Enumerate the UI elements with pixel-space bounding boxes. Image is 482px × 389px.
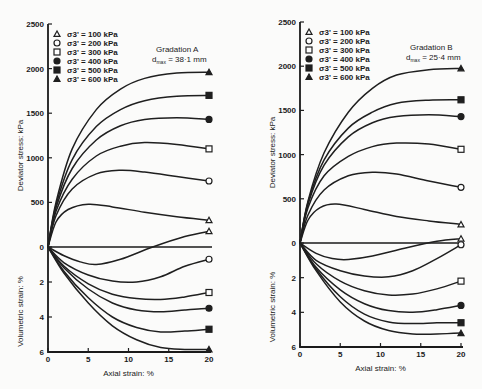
legend-label: σ3' = 500 kPa bbox=[67, 66, 118, 75]
legend-marker-icon bbox=[54, 31, 60, 36]
legend-marker-icon bbox=[306, 47, 312, 53]
volumetric-curve-200-kpa bbox=[300, 243, 461, 277]
x-tick-label: 10 bbox=[376, 350, 385, 359]
y-tick-label-volumetric: 4 bbox=[40, 313, 45, 322]
stress-curve-600-kpa bbox=[300, 68, 461, 243]
volumetric-curve-300-kpa bbox=[300, 243, 461, 295]
data-point-marker-icon bbox=[206, 326, 212, 332]
y-tick-label-stress: 2000 bbox=[278, 62, 296, 71]
data-point-marker-icon bbox=[206, 69, 212, 74]
data-point-marker-icon bbox=[458, 236, 464, 241]
legend-marker-icon bbox=[306, 38, 312, 44]
dmax-label: dmax = 38·1 mm bbox=[152, 55, 207, 65]
y-tick-label-volumetric: 2 bbox=[40, 278, 45, 287]
data-point-marker-icon bbox=[458, 146, 464, 152]
stress-curve-400-kpa bbox=[300, 115, 461, 243]
legend-marker-icon bbox=[54, 49, 60, 55]
y-tick-label-stress: 2500 bbox=[26, 20, 44, 29]
data-point-marker-icon bbox=[206, 116, 212, 122]
stress-curve-300-kpa bbox=[300, 143, 461, 243]
legend: σ3' = 100 kPaσ3' = 200 kPaσ3' = 300 kPaσ… bbox=[306, 28, 370, 82]
y-tick-label-stress: 1500 bbox=[278, 106, 296, 115]
y-tick-label-volumetric: 4 bbox=[292, 308, 297, 317]
data-point-marker-icon bbox=[458, 97, 464, 103]
gradation-label: Gradation A bbox=[156, 45, 199, 54]
y-axis-title-volumetric: Volumetric strain: % bbox=[16, 276, 25, 347]
x-tick-label: 20 bbox=[205, 355, 214, 364]
legend-label: σ3' = 600 kPa bbox=[67, 75, 118, 84]
legend-marker-icon bbox=[54, 67, 60, 73]
data-point-marker-icon bbox=[458, 278, 464, 284]
data-point-marker-icon bbox=[458, 221, 464, 226]
chart-panel-gradation-b: 0500100015002000250024605101520Axial str… bbox=[268, 18, 466, 373]
legend-marker-icon bbox=[306, 65, 312, 71]
volumetric-curve-100-kpa bbox=[48, 231, 209, 264]
legend-marker-icon bbox=[54, 40, 60, 46]
stress-curve-100-kpa bbox=[300, 204, 461, 243]
legend-label: σ3' = 100 kPa bbox=[319, 28, 370, 37]
gradation-annotation: Gradation Bdmax = 25·4 mm bbox=[406, 43, 461, 63]
y-tick-label-stress: 0 bbox=[292, 239, 297, 248]
legend-label: σ3' = 300 kPa bbox=[67, 48, 118, 57]
y-axis-title-stress: Deviator stress: kPa bbox=[268, 116, 277, 188]
y-tick-label-volumetric: 6 bbox=[292, 343, 297, 352]
data-point-marker-icon bbox=[458, 242, 464, 248]
legend-marker-icon bbox=[306, 74, 312, 79]
legend-label: σ3' = 600 kPa bbox=[319, 73, 370, 82]
legend-marker-icon bbox=[54, 58, 60, 64]
legend-label: σ3' = 300 kPa bbox=[319, 46, 370, 55]
x-axis-title: Axial strain: % bbox=[103, 369, 154, 378]
data-point-marker-icon bbox=[206, 178, 212, 184]
data-point-marker-icon bbox=[206, 92, 212, 98]
y-axis-title-volumetric: Volumetric strain: % bbox=[268, 272, 277, 343]
stress-curve-200-kpa bbox=[48, 170, 209, 247]
legend-marker-icon bbox=[306, 29, 312, 34]
volumetric-curve-300-kpa bbox=[48, 247, 209, 300]
legend-label: σ3' = 500 kPa bbox=[319, 64, 370, 73]
stress-curve-400-kpa bbox=[48, 118, 209, 247]
x-axis-title: Axial strain: % bbox=[355, 364, 406, 373]
x-tick-label: 0 bbox=[46, 355, 51, 364]
data-point-marker-icon bbox=[206, 305, 212, 311]
data-point-marker-icon bbox=[206, 256, 212, 262]
stress-curve-200-kpa bbox=[300, 172, 461, 243]
volumetric-curve-200-kpa bbox=[48, 247, 209, 282]
triaxial-test-figure: 0500100015002000250024605101520Axial str… bbox=[0, 0, 482, 389]
x-tick-label: 5 bbox=[86, 355, 91, 364]
legend-label: σ3' = 400 kPa bbox=[67, 57, 118, 66]
data-point-marker-icon bbox=[206, 346, 212, 351]
legend-label: σ3' = 200 kPa bbox=[319, 37, 370, 46]
y-tick-label-stress: 1000 bbox=[278, 151, 296, 160]
legend-marker-icon bbox=[54, 76, 60, 81]
y-tick-label-stress: 1500 bbox=[26, 109, 44, 118]
data-point-marker-icon bbox=[458, 184, 464, 190]
data-point-marker-icon bbox=[458, 302, 464, 308]
figure-stage: 0500100015002000250024605101520Axial str… bbox=[0, 0, 482, 389]
y-tick-label-stress: 2000 bbox=[26, 65, 44, 74]
y-tick-label-stress: 0 bbox=[40, 243, 45, 252]
y-tick-label-stress: 1000 bbox=[26, 154, 44, 163]
legend-label: σ3' = 400 kPa bbox=[319, 55, 370, 64]
x-tick-label: 20 bbox=[457, 350, 466, 359]
y-tick-label-stress: 500 bbox=[283, 195, 297, 204]
legend-label: σ3' = 100 kPa bbox=[67, 30, 118, 39]
data-point-marker-icon bbox=[458, 114, 464, 120]
y-tick-label-volumetric: 2 bbox=[292, 274, 297, 283]
legend-label: σ3' = 200 kPa bbox=[67, 39, 118, 48]
legend-marker-icon bbox=[306, 56, 312, 62]
y-tick-label-stress: 500 bbox=[31, 198, 45, 207]
y-tick-label-volumetric: 6 bbox=[40, 348, 45, 357]
chart-panel-gradation-a: 0500100015002000250024605101520Axial str… bbox=[16, 20, 214, 378]
dmax-label: dmax = 25·4 mm bbox=[406, 53, 461, 63]
data-point-marker-icon bbox=[458, 320, 464, 326]
data-point-marker-icon bbox=[206, 146, 212, 152]
x-tick-label: 0 bbox=[298, 350, 303, 359]
x-tick-label: 10 bbox=[124, 355, 133, 364]
y-tick-label-stress: 2500 bbox=[278, 18, 296, 27]
data-point-marker-icon bbox=[206, 217, 212, 222]
gradation-annotation: Gradation Admax = 38·1 mm bbox=[152, 45, 207, 65]
stress-curve-100-kpa bbox=[48, 204, 209, 247]
x-tick-label: 15 bbox=[164, 355, 173, 364]
x-tick-label: 5 bbox=[338, 350, 343, 359]
gradation-label: Gradation B bbox=[410, 43, 453, 52]
